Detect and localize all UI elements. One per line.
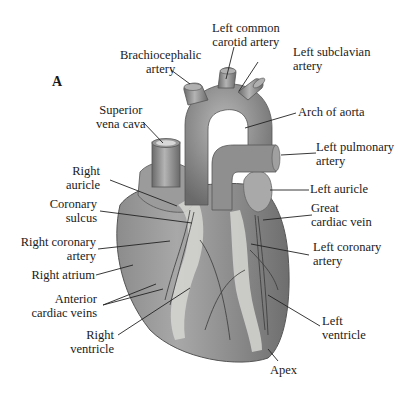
label-line: artery (316, 154, 394, 168)
label-line: Right coronary (21, 235, 96, 249)
label-line: Left subclavian (293, 45, 370, 59)
brachiocephalic-top (184, 84, 202, 91)
label-coronary-sulcus: Coronary sulcus (50, 197, 97, 225)
label-left-subclavian-artery: Left subclavian artery (293, 45, 370, 73)
heart-anatomy-figure: A Brachiocephalic artery Left common car… (0, 0, 413, 399)
label-right-coronary-artery: Right coronary artery (21, 235, 96, 263)
label-line: Left auricle (310, 182, 368, 196)
svc-lumen (156, 140, 176, 146)
label-line: Left common (212, 21, 280, 35)
label-line: Left coronary (313, 240, 381, 254)
label-superior-vena-cava: Superior vena cava (96, 103, 146, 131)
superior-vena-cava-shape (152, 142, 180, 187)
label-line: artery (293, 59, 370, 73)
label-line: auricle (66, 178, 100, 192)
panel-letter: A (52, 74, 62, 90)
label-line: cardiac veins (31, 306, 97, 320)
label-line: cardiac vein (311, 215, 372, 229)
label-line: Left (322, 314, 366, 328)
label-left-pulmonary-artery: Left pulmonary artery (316, 140, 394, 168)
label-left-ventricle: Left ventricle (322, 314, 366, 342)
label-line: Superior (96, 103, 146, 117)
label-line: artery (313, 254, 381, 268)
label-line: ventricle (322, 328, 366, 342)
label-left-common-carotid-artery: Left common carotid artery (212, 21, 280, 49)
label-line: Brachiocephalic (120, 48, 201, 62)
label-arch-of-aorta: Arch of aorta (298, 105, 365, 119)
label-line: ventricle (70, 342, 114, 356)
label-line: Left pulmonary (316, 140, 394, 154)
label-line: Right (70, 328, 114, 342)
label-line: sulcus (50, 211, 97, 225)
label-right-atrium: Right atrium (31, 268, 95, 282)
label-line: vena cava (96, 117, 146, 131)
label-apex: Apex (270, 363, 297, 377)
label-line: carotid artery (212, 35, 280, 49)
label-brachiocephalic-artery: Brachiocephalic artery (120, 48, 201, 76)
label-line: Coronary (50, 197, 97, 211)
label-right-auricle: Right auricle (66, 164, 100, 192)
label-line: Right atrium (31, 268, 95, 282)
label-line: Right (66, 164, 100, 178)
label-line: Great (311, 201, 372, 215)
label-right-ventricle: Right ventricle (70, 328, 114, 356)
label-line: artery (21, 249, 96, 263)
label-line: Arch of aorta (298, 105, 365, 119)
label-left-coronary-artery: Left coronary artery (313, 240, 381, 268)
label-great-cardiac-vein: Great cardiac vein (311, 201, 372, 229)
label-line: Apex (270, 363, 297, 377)
label-left-auricle: Left auricle (310, 182, 368, 196)
label-anterior-cardiac-veins: Anterior cardiac veins (31, 292, 97, 320)
label-line: Anterior (31, 292, 97, 306)
label-line: artery (120, 62, 201, 76)
pulmonary-end (272, 145, 280, 171)
